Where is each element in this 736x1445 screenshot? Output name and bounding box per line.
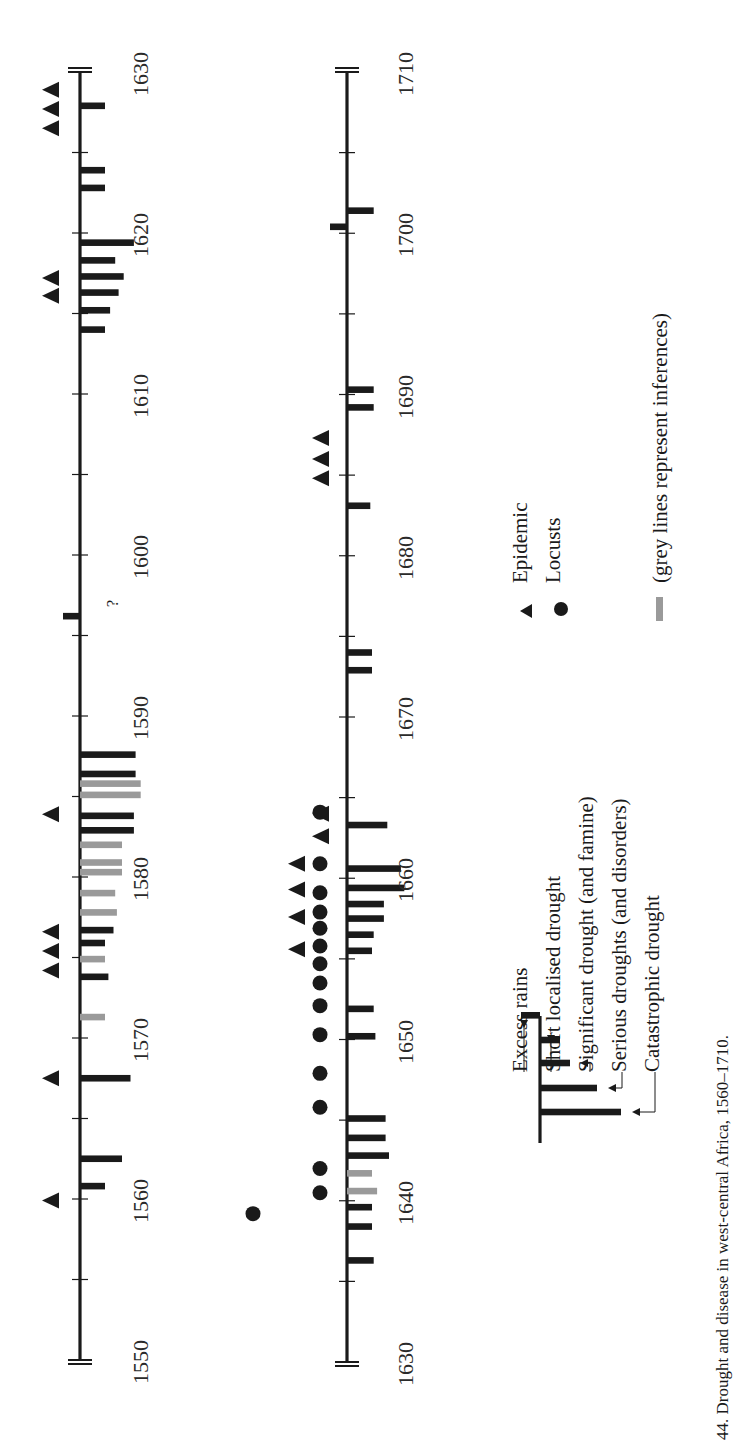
drought-bar-inferred xyxy=(80,956,105,963)
locust-icon xyxy=(313,1100,328,1115)
figure: ? 155015601570158015901600161016201630 1… xyxy=(0,0,736,1445)
drought-bar xyxy=(80,326,105,333)
drought-bar-inferred xyxy=(80,869,122,876)
epidemic-icon xyxy=(42,943,59,959)
drought-bar xyxy=(347,931,374,938)
drought-bar xyxy=(80,167,105,174)
legend-catastrophic-drought: Catastrophic drought xyxy=(640,895,665,1072)
drought-bar xyxy=(80,813,134,820)
epidemic-icon xyxy=(42,120,59,136)
year-label: 1590 xyxy=(128,696,154,740)
drought-bar xyxy=(347,1223,372,1230)
figure-caption: 44. Drought and disease in west-central … xyxy=(713,1035,733,1440)
legend-arrowhead xyxy=(608,1084,616,1092)
drought-bar-inferred xyxy=(80,1014,105,1021)
epidemic-icon xyxy=(42,82,59,98)
epidemic-icon xyxy=(42,806,59,822)
legend-serious-drought: Serious droughts (and disorders) xyxy=(607,798,632,1072)
drought-bar xyxy=(347,207,374,214)
uncertain-marker: ? xyxy=(104,600,121,607)
locust-icon xyxy=(313,905,328,920)
legend-drought-bar xyxy=(540,1109,621,1116)
drought-bar xyxy=(80,771,136,778)
year-label: 1680 xyxy=(393,536,419,580)
locust-icon xyxy=(313,998,328,1013)
year-label: 1690 xyxy=(393,375,419,419)
drought-bar xyxy=(347,502,370,509)
drought-bar-inferred xyxy=(347,1170,372,1177)
drought-bar xyxy=(80,974,108,981)
year-label: 1580 xyxy=(128,857,154,901)
drought-bar xyxy=(347,915,384,922)
drought-bar xyxy=(80,103,105,110)
timeline-chart: ? xyxy=(0,0,736,1445)
drought-bar xyxy=(347,1135,386,1142)
year-label: 1570 xyxy=(128,1018,154,1062)
excess-rain-bar xyxy=(63,613,80,620)
drought-bar xyxy=(347,1257,374,1264)
epidemic-icon xyxy=(312,451,329,467)
year-label: 1560 xyxy=(128,1179,154,1223)
legend-drought-bar xyxy=(540,1085,597,1092)
drought-bar xyxy=(80,185,105,192)
legend-epidemic-icon xyxy=(520,604,532,618)
drought-bar xyxy=(347,649,372,656)
epidemic-icon xyxy=(288,909,305,925)
legend-locust-icon xyxy=(554,602,568,616)
year-label: 1640 xyxy=(393,1181,419,1225)
drought-bar-inferred xyxy=(80,890,115,897)
year-label: 1670 xyxy=(393,697,419,741)
epidemic-icon xyxy=(42,1193,59,1209)
legend-epidemic-label: Epidemic xyxy=(508,503,533,583)
locust-icon xyxy=(313,976,328,991)
drought-bar xyxy=(80,273,124,280)
locust-icon xyxy=(313,885,328,900)
epidemic-icon xyxy=(42,101,59,117)
legend-locusts-label: Locusts xyxy=(541,518,566,583)
epidemic-icon xyxy=(312,470,329,486)
drought-bar xyxy=(347,1033,375,1040)
drought-bar-inferred xyxy=(80,792,141,799)
drought-bar xyxy=(80,751,136,758)
year-label: 1600 xyxy=(128,535,154,579)
epidemic-icon xyxy=(42,962,59,978)
drought-bar xyxy=(80,1183,105,1190)
drought-bar xyxy=(347,1204,372,1211)
drought-bar xyxy=(347,901,384,908)
drought-bar xyxy=(347,1115,386,1122)
drought-bar xyxy=(80,257,115,264)
drought-bar xyxy=(80,1075,131,1082)
drought-bar xyxy=(80,307,110,314)
locust-icon xyxy=(313,938,328,953)
year-label: 1660 xyxy=(393,858,419,902)
year-label: 1630 xyxy=(393,1342,419,1386)
drought-bar xyxy=(80,239,134,246)
year-label: 1630 xyxy=(128,52,154,96)
epidemic-icon xyxy=(288,856,305,872)
drought-bar-inferred xyxy=(80,842,122,849)
epidemic-icon xyxy=(312,828,329,844)
locust-icon xyxy=(313,956,328,971)
epidemic-icon xyxy=(288,941,305,957)
drought-bar xyxy=(80,289,119,296)
drought-bar xyxy=(347,1006,374,1013)
drought-bar-inferred xyxy=(80,780,141,787)
epidemic-icon xyxy=(42,288,59,304)
epidemic-icon xyxy=(312,430,329,446)
locust-icon xyxy=(313,921,328,936)
drought-bar xyxy=(347,1152,389,1159)
legend-excess-rains: Excess rains xyxy=(508,968,533,1072)
locust-icon xyxy=(313,1161,328,1176)
legend-arrowhead xyxy=(632,1108,640,1116)
locust-icon xyxy=(313,1027,328,1042)
drought-bar xyxy=(80,927,114,934)
drought-bar xyxy=(347,948,372,955)
epidemic-icon xyxy=(42,924,59,940)
epidemic-icon xyxy=(288,882,305,898)
excess-rain-bar xyxy=(330,224,347,231)
drought-bar xyxy=(347,667,372,674)
drought-bar xyxy=(80,1155,122,1162)
year-label: 1620 xyxy=(128,213,154,257)
drought-bar xyxy=(80,827,134,834)
drought-bar-inferred xyxy=(80,859,122,866)
